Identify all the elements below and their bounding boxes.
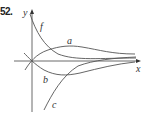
y-axis-label: y bbox=[22, 7, 28, 18]
figure: 52. y x f a b c bbox=[0, 0, 148, 116]
problem-number: 52. bbox=[0, 6, 12, 17]
curve-f bbox=[30, 14, 136, 59]
label-c: c bbox=[52, 99, 57, 110]
curve-c bbox=[44, 57, 136, 110]
label-a: a bbox=[67, 35, 72, 46]
graph: y x f a b c bbox=[0, 0, 148, 116]
x-axis-label: x bbox=[135, 63, 141, 74]
curve-b bbox=[24, 53, 135, 75]
label-f: f bbox=[40, 21, 44, 32]
label-b: b bbox=[43, 74, 48, 85]
y-axis-arrow-icon bbox=[30, 9, 34, 14]
